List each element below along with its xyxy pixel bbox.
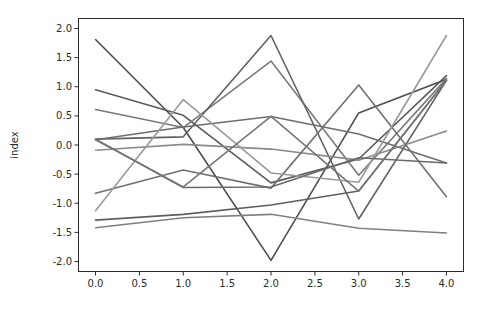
y-tick-label-3: -0.5: [52, 169, 72, 180]
matplotlib-figure: 0.00.51.01.52.02.53.03.54.0 -2.0-1.5-1.0…: [0, 0, 479, 312]
x-tick-label-1: 0.5: [131, 278, 147, 289]
y-tick-label-0: -2.0: [52, 256, 72, 267]
x-tick-label-5: 2.5: [307, 278, 323, 289]
x-tick-label-3: 1.5: [219, 278, 235, 289]
y-axis-label-group: index: [9, 131, 20, 158]
y-tick-label-6: 1.0: [56, 81, 72, 92]
x-tick-label-4: 2.0: [263, 278, 279, 289]
y-tick-label-7: 1.5: [56, 52, 72, 63]
x-tick-label-8: 4.0: [439, 278, 455, 289]
y-tick-label-4: 0.0: [56, 140, 72, 151]
x-tick-label-6: 3.0: [351, 278, 367, 289]
y-axis-label: index: [9, 131, 20, 158]
x-tick-label-2: 1.0: [175, 278, 191, 289]
x-tick-label-0: 0.0: [88, 278, 104, 289]
y-tick-label-2: -1.0: [52, 198, 72, 209]
x-tick-label-7: 3.5: [395, 278, 411, 289]
y-tick-label-1: -1.5: [52, 227, 72, 238]
line-chart-canvas: 0.00.51.01.52.02.53.03.54.0 -2.0-1.5-1.0…: [0, 0, 479, 312]
y-tick-label-5: 0.5: [56, 110, 72, 121]
y-tick-label-8: 2.0: [56, 23, 72, 34]
